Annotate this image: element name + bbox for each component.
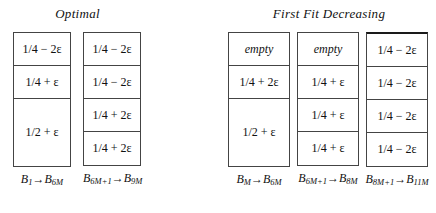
bin-range-label: B8M+1→B11M <box>362 173 432 186</box>
bin-cell: 1/4 − 2ε <box>84 33 140 66</box>
bin-cell: 1/4 − 2ε <box>367 34 427 67</box>
section-title-first-fit-decreasing: First Fit Decreasing <box>225 6 433 22</box>
range-label-prefix: B <box>298 171 305 185</box>
bin-range-label: B6M+1→B8M <box>293 172 363 185</box>
range-label-prefix: B <box>236 172 243 186</box>
range-label-suffix: B <box>406 172 413 186</box>
bin-box: 1/4 − 2ε 1/4 − 2ε 1/4 − 2ε 1/4 − 2ε <box>366 32 428 167</box>
bin-cell: 1/4 + ε <box>298 66 358 99</box>
bin-range-label: B6M+1→B9M <box>83 172 142 185</box>
range-label-end-sub: 8M <box>346 176 357 186</box>
bin-cell: 1/4 − 2ε <box>367 133 427 166</box>
arrow-icon: → <box>112 171 124 185</box>
bin-box: 1/4 − 2ε 1/4 + ε 1/2 + ε <box>13 32 71 167</box>
bin-cell: 1/4 + ε <box>298 132 358 165</box>
bin-cell-empty: empty <box>229 33 289 66</box>
bin-cell: 1/2 + ε <box>14 99 70 166</box>
bin-column: 1/4 − 2ε 1/4 + ε 1/2 + ε B1→B6M <box>13 32 71 186</box>
bin-column: 1/4 − 2ε 1/4 − 2ε 1/4 + 2ε 1/4 + 2ε B6M+… <box>83 32 142 185</box>
arrow-icon: → <box>251 172 263 186</box>
bin-cell: 1/4 − 2ε <box>14 33 70 66</box>
bin-cell-empty: empty <box>298 33 358 66</box>
range-label-end-sub: 9M <box>131 176 142 186</box>
bin-column: 1/4 − 2ε 1/4 − 2ε 1/4 − 2ε 1/4 − 2ε B8M+… <box>366 32 428 186</box>
bin-group-optimal: 1/4 − 2ε 1/4 + ε 1/2 + ε B1→B6M 1/4 − 2ε… <box>13 32 142 186</box>
arrow-icon: → <box>32 172 44 186</box>
bin-box: empty 1/4 + ε 1/4 + ε 1/4 + ε <box>297 32 359 166</box>
bin-cell: 1/4 + 2ε <box>84 99 140 132</box>
bin-packing-figure: Optimal 1/4 − 2ε 1/4 + ε 1/2 + ε B1→B6M … <box>0 0 436 213</box>
bin-column: empty 1/4 + ε 1/4 + ε 1/4 + ε B6M+1→B8M <box>297 32 359 185</box>
bin-group-first-fit-decreasing: empty 1/4 + 2ε 1/2 + ε BM→B6M empty 1/4 … <box>228 32 428 186</box>
range-label-end-sub: 6M <box>52 177 63 187</box>
range-label-start-sub: M <box>244 177 251 187</box>
bin-cell: 1/4 + ε <box>298 99 358 132</box>
range-label-suffix: B <box>44 172 51 186</box>
range-label-start-sub: 6M+1 <box>90 176 111 186</box>
bin-box: 1/4 − 2ε 1/4 − 2ε 1/4 + 2ε 1/4 + 2ε <box>83 32 141 166</box>
range-label-end-sub: 6M <box>270 177 281 187</box>
range-label-suffix: B <box>124 171 131 185</box>
section-title-optimal: Optimal <box>0 6 155 22</box>
bin-cell: 1/4 − 2ε <box>84 66 140 99</box>
range-label-prefix: B <box>366 172 373 186</box>
range-label-start-sub: 8M+1 <box>373 177 394 187</box>
arrow-icon: → <box>327 171 339 185</box>
bin-box: empty 1/4 + 2ε 1/2 + ε <box>228 32 290 167</box>
bin-cell: 1/4 − 2ε <box>367 67 427 100</box>
bin-cell: 1/2 + ε <box>229 99 289 166</box>
bin-column: empty 1/4 + 2ε 1/2 + ε BM→B6M <box>228 32 290 186</box>
bin-cell: 1/4 − 2ε <box>367 100 427 133</box>
range-label-start-sub: 6M+1 <box>306 176 327 186</box>
bin-cell: 1/4 + ε <box>14 66 70 99</box>
bin-cell: 1/4 + 2ε <box>229 66 289 99</box>
bin-range-label: BM→B6M <box>224 173 294 186</box>
range-label-end-sub: 11M <box>414 177 429 187</box>
bin-cell: 1/4 + 2ε <box>84 132 140 165</box>
bin-range-label: B1→B6M <box>13 173 71 186</box>
arrow-icon: → <box>394 172 406 186</box>
